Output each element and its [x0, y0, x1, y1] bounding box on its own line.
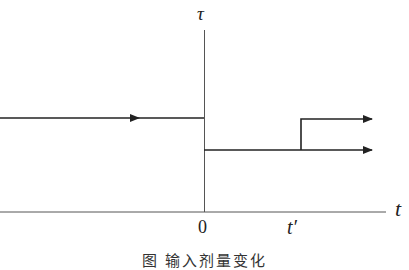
segment-after-t-prime: [301, 119, 372, 150]
x-tick-zero: 0: [198, 218, 207, 236]
figure-caption: 图 输入剂量变化: [0, 249, 409, 270]
x-axis-label: t: [395, 198, 401, 220]
y-axis-label: τ: [197, 4, 204, 23]
x-tick-t-prime: t′: [287, 217, 297, 237]
mid-arrow-icon: [130, 114, 140, 122]
